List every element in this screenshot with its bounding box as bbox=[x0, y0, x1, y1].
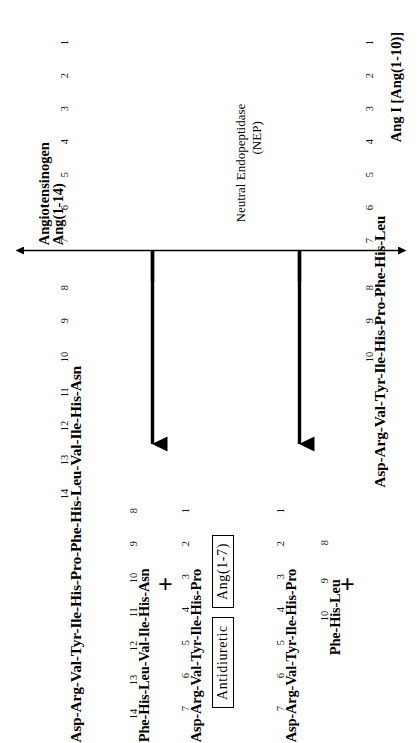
residue-number: 3 bbox=[365, 106, 376, 111]
residue-number: 10 bbox=[365, 352, 376, 363]
residue-number: 9 bbox=[365, 318, 376, 323]
residue-number: 4 bbox=[365, 139, 376, 144]
figure-canvas: Angiotensinogen Ang(1-14) Asp-Arg-Val-Ty… bbox=[0, 0, 420, 743]
residue-number: 8 bbox=[320, 540, 331, 545]
residue-number: 14 bbox=[129, 709, 140, 720]
residue-number: 10 bbox=[60, 352, 71, 363]
residue-number: 14 bbox=[60, 489, 71, 500]
residue-number: 6 bbox=[60, 205, 71, 210]
residue-number: 9 bbox=[60, 318, 71, 323]
residue-number: 10 bbox=[320, 611, 331, 622]
enzyme-name-line2: (NEP) bbox=[250, 121, 263, 154]
residue-number: 9 bbox=[129, 541, 140, 546]
ang-1-7-box: Ang(1-7) bbox=[212, 535, 234, 608]
residue-number: 1 bbox=[181, 508, 192, 513]
angiotensinogen-sequence: Asp-Arg-Val-Tyr-Ile-His-Pro-Phe-His-Leu-… bbox=[68, 366, 84, 743]
arrow-layer bbox=[0, 0, 420, 743]
residue-number: 8 bbox=[365, 285, 376, 290]
residue-number: 5 bbox=[276, 640, 287, 645]
antidiuretic-box-wrap: Antidiuretic bbox=[214, 617, 230, 708]
antidiuretic-box: Antidiuretic bbox=[212, 617, 234, 708]
angiotensinogen-name-line2: Ang(1-14) bbox=[51, 183, 66, 245]
residue-number: 3 bbox=[60, 106, 71, 111]
residue-number: 1 bbox=[60, 40, 71, 45]
residue-number: 7 bbox=[276, 706, 287, 711]
residue-number: 5 bbox=[365, 172, 376, 177]
residue-number: 3 bbox=[181, 574, 192, 579]
residue-number: 1 bbox=[276, 508, 287, 513]
enzyme-name-line1: Neutral Endopeptidase bbox=[234, 104, 247, 223]
residue-number: 3 bbox=[276, 574, 287, 579]
residue-number: 6 bbox=[365, 205, 376, 210]
residue-number: 6 bbox=[276, 673, 287, 678]
residue-number: 2 bbox=[181, 541, 192, 546]
product-left-fragment-a-sequence: Asp-Arg-Val-Tyr-Ile-His-Pro bbox=[189, 569, 204, 742]
residue-number: 8 bbox=[60, 285, 71, 290]
residue-number: 4 bbox=[181, 607, 192, 612]
residue-number: 4 bbox=[60, 139, 71, 144]
residue-number: 2 bbox=[276, 541, 287, 546]
residue-number: 13 bbox=[60, 455, 71, 466]
residue-number: 6 bbox=[181, 673, 192, 678]
residue-number: 13 bbox=[129, 675, 140, 686]
residue-number: 7 bbox=[365, 238, 376, 243]
residue-number: 9 bbox=[320, 578, 331, 583]
residue-number: 11 bbox=[60, 387, 71, 397]
residue-number: 1 bbox=[365, 40, 376, 45]
ang-i-name: Ang I [Ang(1-10)] bbox=[389, 32, 404, 142]
residue-number: 12 bbox=[60, 421, 71, 432]
residue-number: 5 bbox=[181, 640, 192, 645]
residue-number: 2 bbox=[60, 73, 71, 78]
residue-number: 11 bbox=[129, 607, 140, 617]
residue-number: 7 bbox=[60, 238, 71, 243]
residue-number: 2 bbox=[365, 73, 376, 78]
residue-number: 5 bbox=[60, 172, 71, 177]
product-right-fragment-a-sequence: Asp-Arg-Val-Tyr-Ile-His-Pro bbox=[284, 569, 299, 742]
residue-number: 7 bbox=[181, 706, 192, 711]
residue-number: 10 bbox=[129, 573, 140, 584]
residue-number: 8 bbox=[129, 508, 140, 513]
residue-number: 12 bbox=[129, 641, 140, 652]
residue-number: 4 bbox=[276, 607, 287, 612]
product-left-plus-operator: + bbox=[158, 572, 173, 598]
ang-1-7-box-wrap: Ang(1-7) bbox=[214, 535, 230, 608]
